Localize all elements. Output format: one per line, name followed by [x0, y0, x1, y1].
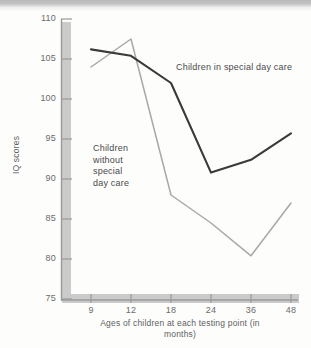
x-tick-label-9: 9	[79, 305, 103, 315]
y-tick-label-85: 85	[34, 213, 56, 223]
y-tick-label-80: 80	[34, 253, 56, 263]
x-tick-label-12: 12	[119, 305, 143, 315]
y-tick-label-110: 110	[34, 13, 56, 23]
y-tick-label-90: 90	[34, 173, 56, 183]
x-tick-label-48: 48	[279, 305, 303, 315]
x-tick-label-36: 36	[239, 305, 263, 315]
y-tick-label-100: 100	[34, 93, 56, 103]
annotation-without-special-day-care: Children without special day care	[93, 143, 129, 189]
x-axis-title: Ages of children at each testing point (…	[95, 318, 265, 340]
x-tick-label-24: 24	[199, 305, 223, 315]
y-tick-label-105: 105	[34, 53, 56, 63]
chart-figure: 110 105 100 95 90 85 80 75 9 12 18 24 36…	[0, 0, 311, 348]
annotation-special-day-care: Children in special day care	[176, 62, 292, 74]
plot-area: 110 105 100 95 90 85 80 75 9 12 18 24 36…	[0, 0, 311, 348]
y-axis-title: IQ scores	[11, 125, 21, 185]
y-tick-label-95: 95	[34, 133, 56, 143]
x-tick-label-18: 18	[159, 305, 183, 315]
y-tick-label-75: 75	[34, 293, 56, 303]
